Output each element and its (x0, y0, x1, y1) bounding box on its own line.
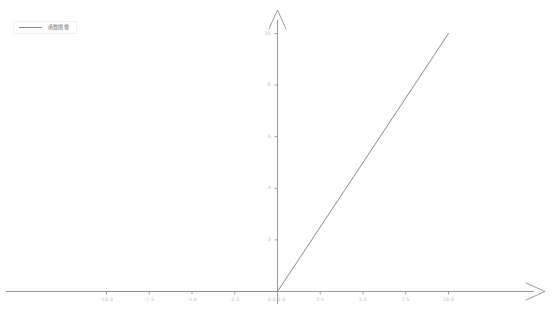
x-tick-label-5: 5.0 (359, 298, 367, 303)
x-tick-label--10: -10.0 (100, 298, 113, 303)
y-tick-label-8: 8 (268, 83, 271, 88)
y-tick-label-4: 4 (268, 186, 271, 191)
x-tick-label-7-5: 7.5 (402, 298, 410, 303)
x-tick-label--7-5: -7.5 (144, 298, 154, 303)
chart-legend: 函数图像 (13, 21, 77, 34)
plot-canvas (0, 0, 557, 314)
y-tick-label-2: 2 (268, 238, 271, 243)
x-tick-label-10: 10.0 (443, 298, 454, 303)
legend-line-swatch (19, 27, 42, 28)
x-tick-label-0: 0.0 (277, 298, 285, 303)
y-tick-label-6: 6 (268, 134, 271, 139)
chart-figure: 函数图像 -10.0 -7.5 -5.0 -2.5 0.0 2.5 5.0 7.… (0, 0, 557, 314)
x-tick-label--5: -5.0 (187, 298, 197, 303)
y-tick-label-0: 0.0 (268, 298, 276, 303)
legend-item-label: 函数图像 (48, 25, 69, 30)
x-tick-label-2-5: 2.5 (316, 298, 324, 303)
x-tick-label--2-5: -2.5 (230, 298, 240, 303)
y-tick-label-10: 10 (265, 31, 271, 36)
